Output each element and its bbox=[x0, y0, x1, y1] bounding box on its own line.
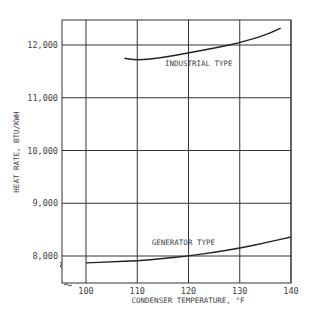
curve-labels: INDUSTRIAL TYPEGENERATOR TYPE bbox=[152, 59, 233, 247]
y-tick-label: 10,000 bbox=[27, 146, 58, 156]
y-tick-label: 8,000 bbox=[32, 251, 58, 261]
y-tick-label: 9,000 bbox=[32, 198, 58, 208]
curve-label: GENERATOR TYPE bbox=[152, 238, 216, 247]
y-tick-labels: 8,0009,00010,00011,00012,000 bbox=[27, 40, 58, 261]
x-tick-label: 110 bbox=[130, 286, 145, 296]
y-axis-label: HEAT RATE, BTU/KWH bbox=[12, 111, 21, 193]
y-tick-label: 11,000 bbox=[27, 93, 58, 103]
x-tick-label: 120 bbox=[181, 286, 196, 296]
x-tick-label: 100 bbox=[78, 286, 93, 296]
heat-rate-chart: 8,0009,00010,00011,00012,000 10011012013… bbox=[0, 0, 315, 317]
y-tick-label: 12,000 bbox=[27, 40, 58, 50]
x-tick-label: 140 bbox=[283, 286, 298, 296]
curve-label: INDUSTRIAL TYPE bbox=[165, 59, 233, 68]
industrial-type-curve bbox=[124, 28, 280, 60]
x-tick-label: 130 bbox=[232, 286, 247, 296]
x-tick-labels: 100110120130140 bbox=[78, 286, 298, 296]
x-axis-label: CONDENSER TEMPERATURE, °F bbox=[132, 296, 245, 305]
